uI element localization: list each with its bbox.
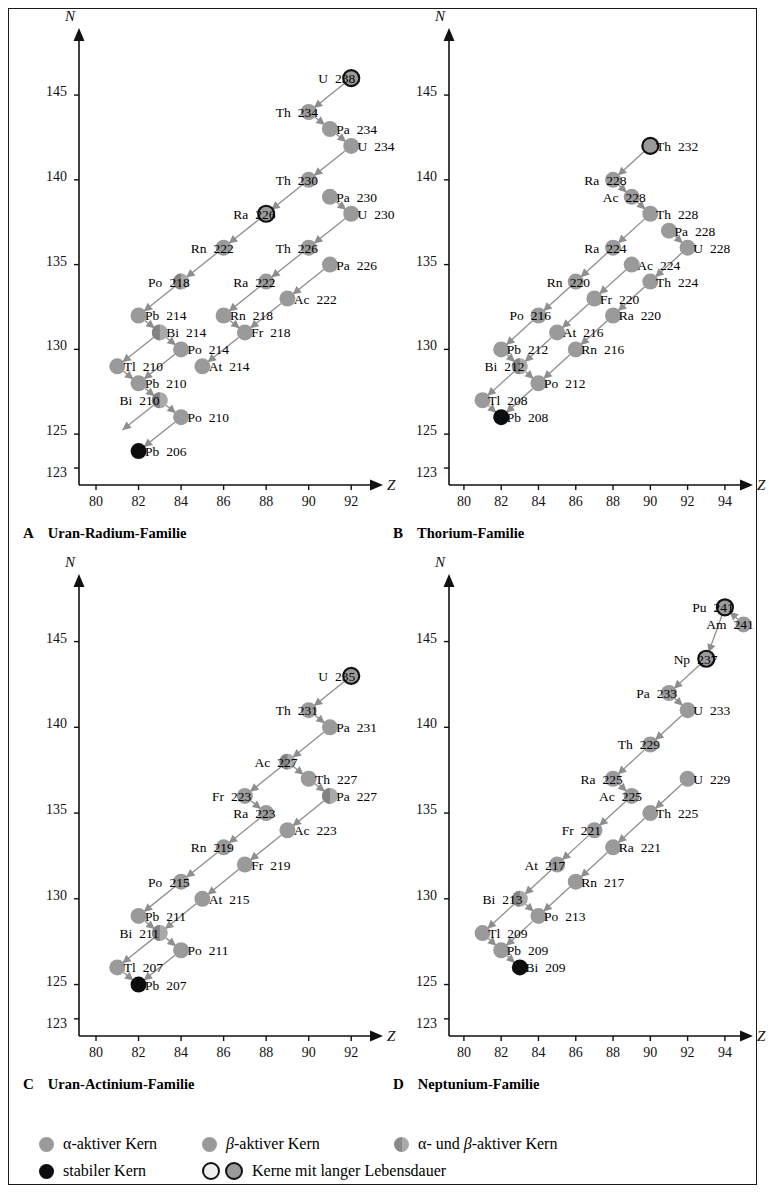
- axes: [444, 574, 754, 1042]
- nuclide-label: Pb214: [145, 308, 187, 323]
- decay-chart-a: NZ12312513013514014580828486889092U238Th…: [23, 23, 393, 563]
- nuclide-label: Fr221: [562, 823, 601, 838]
- nuclide-label: Bi209: [525, 960, 565, 975]
- y-tick-label: 125: [46, 974, 67, 989]
- legend-longlived-label: Kerne mit langer Lebensdauer: [252, 1162, 446, 1180]
- nuclide-label: Ra225: [580, 772, 623, 787]
- nuclide-label: Ra222: [233, 275, 275, 290]
- nuclide-label: Po213: [544, 909, 586, 924]
- longlived-gray-node-icon: [225, 1162, 243, 1180]
- nuclide-label: Pa228: [675, 224, 716, 239]
- nuclide-label: Pb207: [145, 978, 187, 993]
- nuclide-label: Pb210: [145, 376, 187, 391]
- decay-chart-b: NZ1231251301351401458082848688909294Th23…: [393, 23, 763, 563]
- y-axis-symbol: N: [64, 8, 76, 24]
- nuclide-label: Rn217: [581, 875, 624, 890]
- y-tick-label: 145: [46, 631, 67, 646]
- x-tick-label: 80: [89, 494, 103, 509]
- nuclide-label: At216: [563, 325, 604, 340]
- x-tick-label: 84: [174, 1045, 188, 1060]
- nuclide-label: Rn218: [230, 308, 273, 323]
- x-tick-label: 92: [344, 1045, 358, 1060]
- nuclide-label: Fr219: [251, 858, 291, 873]
- nuclide-label: Po211: [187, 943, 228, 958]
- alpha-beta-node-icon: [394, 1137, 409, 1152]
- decay-chart-c: NZ12312513013514014580828486889092U235Th…: [23, 569, 393, 1114]
- panel-letter: A: [23, 525, 34, 541]
- y-tick-label: 130: [416, 338, 437, 353]
- y-tick-label: 123: [416, 465, 437, 480]
- nuclide-label: Po214: [187, 342, 229, 357]
- nuclide-nodes: Pu241Am241Np237Pa233U233Th229Ra225Ac225F…: [475, 599, 754, 975]
- panel-b: NZ1231251301351401458082848688909294Th23…: [393, 23, 763, 563]
- x-tick-label: 84: [531, 1045, 545, 1060]
- nuclide-label: Am241: [706, 617, 754, 632]
- panel-caption-text: Thorium-Familie: [417, 525, 524, 541]
- y-tick-label: 145: [416, 631, 437, 646]
- nuclide-label: Ra224: [584, 241, 627, 256]
- nuclide-label: Ac222: [294, 292, 337, 307]
- nuclide-label: Pa227: [336, 789, 377, 804]
- legend-stable-label: stabiler Kern: [63, 1162, 146, 1180]
- y-tick-label: 125: [46, 423, 67, 438]
- x-tick-label: 82: [132, 494, 146, 509]
- y-tick-label: 123: [46, 1016, 67, 1031]
- y-tick-label: 145: [46, 84, 67, 99]
- y-tick-label: 123: [416, 1016, 437, 1031]
- y-tick-label: 130: [46, 888, 67, 903]
- nuclide-label: Po212: [544, 376, 586, 391]
- x-tick-label: 86: [569, 494, 583, 509]
- x-axis-symbol: Z: [757, 1028, 766, 1044]
- nuclide-nodes: U238Th234Pa234U234Th230Ra226Rn222Po218Pb…: [109, 70, 395, 459]
- nuclide-label: U234: [358, 139, 395, 154]
- nuclide-label: Ra221: [619, 840, 661, 855]
- legend-alpha-label: α-aktiver Kern: [63, 1135, 157, 1153]
- nuclide-label: Rn216: [581, 342, 624, 357]
- legend-alpha-beta-label: α- und β-aktiver Kern: [418, 1135, 557, 1153]
- stable-node-icon: [39, 1164, 54, 1179]
- legend-item-alpha: α-aktiver Kern: [39, 1135, 157, 1153]
- nuclide-label: Ac225: [599, 789, 642, 804]
- nuclide-label: Np237: [674, 652, 718, 667]
- nuclide-label: Bi214: [166, 325, 206, 340]
- nuclide-label: Po218: [148, 275, 190, 290]
- nuclide-label: Po210: [187, 410, 229, 425]
- panel-caption-c: CUran-Actinium-Familie: [23, 1076, 194, 1093]
- nuclide-label: Fr223: [212, 789, 252, 804]
- nuclide-label: Pb206: [145, 444, 187, 459]
- y-axis-symbol: N: [434, 8, 446, 24]
- nuclide-label: Th224: [656, 275, 699, 290]
- legend-item-longlived: Kerne mit langer Lebensdauer: [202, 1162, 446, 1180]
- y-tick-label: 123: [46, 465, 67, 480]
- panel-caption-text: Neptunium-Familie: [418, 1076, 540, 1092]
- x-tick-label: 80: [89, 1045, 103, 1060]
- x-tick-label: 88: [606, 1045, 620, 1060]
- y-tick-label: 125: [416, 423, 437, 438]
- y-tick-label: 125: [416, 974, 437, 989]
- figure-frame: NZ12312513013514014580828486889092U238Th…: [8, 8, 757, 1185]
- nuclide-label: Tl208: [488, 393, 528, 408]
- nuclide-label: Pa234: [336, 122, 377, 137]
- x-tick-label: 86: [217, 1045, 231, 1060]
- x-tick-label: 92: [681, 494, 695, 509]
- nuclide-label: Th228: [656, 207, 699, 222]
- panel-caption-a: AUran-Radium-Familie: [23, 525, 186, 542]
- nuclide-label: Po216: [510, 308, 552, 323]
- y-tick-label: 135: [46, 802, 67, 817]
- nuclide-label: Bi212: [484, 359, 524, 374]
- x-tick-label: 88: [259, 494, 273, 509]
- x-tick-label: 80: [457, 1045, 471, 1060]
- nuclide-label: Pb212: [507, 342, 549, 357]
- nuclide-label: Bi211: [119, 926, 159, 941]
- nuclide-label: Rn219: [191, 840, 234, 855]
- longlived-open-node-icon: [202, 1162, 220, 1180]
- x-tick-label: 88: [606, 494, 620, 509]
- y-axis-symbol: N: [434, 554, 446, 570]
- panel-d: NZ1231251301351401458082848688909294Pu24…: [393, 569, 763, 1114]
- nuclide-label: Ra220: [619, 308, 662, 323]
- panel-caption-b: BThorium-Familie: [393, 525, 524, 542]
- nuclide-nodes: Th232Ra228Ac228Th228Ra224Rn220Po216Pb212…: [475, 138, 731, 425]
- x-tick-label: 90: [643, 1045, 657, 1060]
- nuclide-label: Bi210: [119, 393, 159, 408]
- nuclide-nodes: U235Th231Pa231Ac227Fr223Ra223Rn219Po215P…: [109, 668, 377, 993]
